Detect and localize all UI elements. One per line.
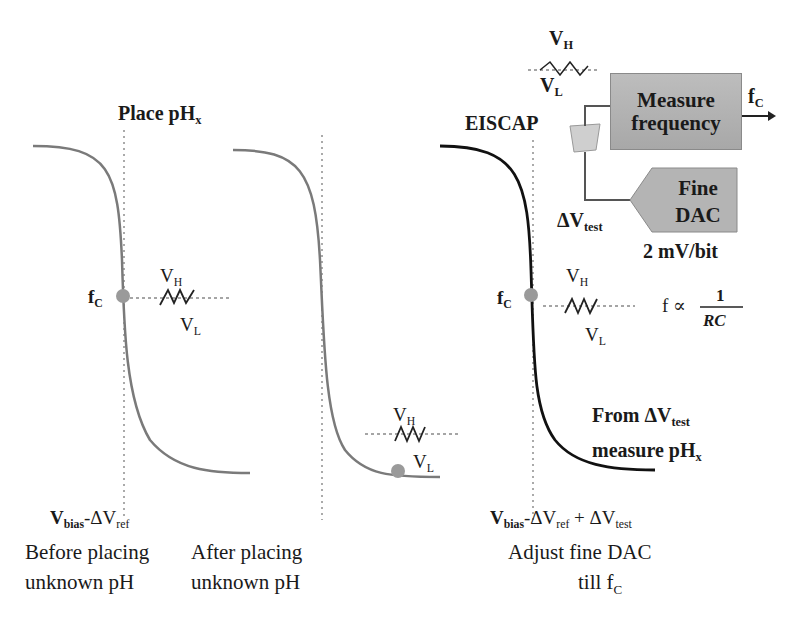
vl-label-1: VL — [180, 315, 201, 338]
vh-label-2: VH — [393, 405, 415, 428]
wire-to-measure — [585, 106, 610, 126]
panel-1-caption-line2: unknown pH — [25, 572, 134, 593]
formula-lhs: f ∝ — [662, 296, 686, 315]
panel-2-caption-line2: unknown pH — [191, 572, 300, 593]
panel-3-caption-line2: till fC — [578, 572, 622, 596]
panel-1-caption-line1: Before placing — [25, 542, 149, 563]
measure-frequency-block: Measurefrequency — [610, 73, 742, 150]
vbias-label-3: Vbias-ΔVref + ΔVtest — [490, 508, 632, 531]
formula-numerator: 1 — [716, 287, 725, 304]
dv-test-label: ΔVtest — [557, 210, 603, 234]
sigmoid-curve-before — [33, 146, 250, 473]
vh-label-1: VH — [160, 266, 182, 289]
dac-resolution-label: 2 mV/bit — [643, 241, 718, 261]
circuit-vl-label: VL — [540, 75, 563, 99]
output-fc-label: fC — [748, 86, 764, 110]
fc-label-3: fC — [497, 288, 512, 311]
conclusion-line1: From ΔVtest — [592, 405, 690, 429]
circuit-vh-label: VH — [549, 28, 573, 52]
eiscap-label: EISCAP — [465, 113, 538, 133]
operating-point-1 — [116, 289, 130, 303]
fine-dac-label: FineDAC — [664, 175, 732, 230]
vbias-label-1: Vbias-ΔVref — [50, 508, 129, 531]
eiscap-sensor-icon — [570, 124, 600, 152]
operating-point-3 — [524, 288, 538, 302]
triangle-wave-1 — [160, 290, 194, 305]
vl-label-2: VL — [413, 452, 434, 475]
wire-to-dac — [585, 152, 630, 200]
panel-2-caption-line1: After placing — [191, 542, 302, 563]
vh-label-3: VH — [566, 266, 588, 289]
panel-3-caption-line1: Adjust fine DAC — [508, 542, 652, 563]
operating-point-2 — [391, 464, 405, 478]
vl-label-3: VL — [585, 325, 606, 348]
output-arrow-icon — [768, 111, 776, 121]
place-ph-title: Place pHx — [118, 103, 201, 127]
fc-label-1: fC — [88, 287, 103, 310]
formula-denominator: RC — [703, 312, 726, 329]
conclusion-line2: measure pHx — [592, 440, 702, 464]
